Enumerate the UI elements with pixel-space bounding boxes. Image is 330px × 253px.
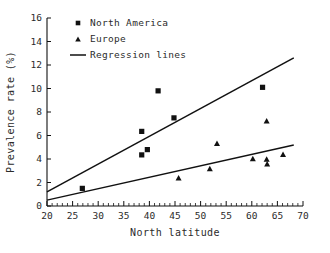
y-axis-ticks: 0246810121416 — [31, 12, 51, 211]
x-tick-label: 65 — [272, 210, 283, 221]
y-tick-label: 10 — [31, 83, 43, 94]
data-point-triangle — [264, 161, 270, 167]
x-tick-label: 35 — [118, 210, 129, 221]
x-tick-label: 55 — [220, 210, 231, 221]
data-point-triangle — [176, 175, 182, 181]
y-tick-label: 12 — [31, 59, 42, 70]
data-point-triangle — [264, 118, 270, 124]
y-tick-label: 16 — [31, 12, 43, 23]
data-points — [80, 85, 286, 191]
x-axis-title: North latitude — [130, 227, 220, 238]
x-tick-label: 60 — [246, 210, 258, 221]
y-tick-label: 4 — [36, 153, 42, 164]
regression-lines — [47, 58, 294, 200]
y-tick-label: 8 — [36, 106, 42, 117]
y-axis-title: Prevalence rate (%) — [5, 51, 16, 173]
legend: North AmericaEuropeRegression lines — [70, 17, 186, 60]
data-point-triangle — [214, 140, 220, 146]
data-point-square — [139, 129, 144, 134]
data-point-square — [145, 147, 150, 152]
legend-label: Regression lines — [90, 49, 186, 60]
data-point-triangle — [207, 166, 213, 172]
data-point-triangle — [264, 156, 270, 162]
data-point-square — [80, 186, 85, 191]
x-tick-label: 45 — [169, 210, 180, 221]
data-point-triangle — [250, 156, 256, 162]
x-tick-label: 25 — [67, 210, 78, 221]
y-tick-label: 2 — [36, 177, 42, 188]
plot-area: 0246810121416 2025303540455055606570 Nor… — [0, 0, 330, 253]
data-point-square — [171, 115, 176, 120]
legend-marker-triangle — [75, 36, 81, 41]
y-tick-label: 6 — [36, 130, 42, 141]
x-tick-label: 50 — [195, 210, 207, 221]
data-point-square — [260, 85, 265, 90]
x-tick-label: 20 — [41, 210, 53, 221]
x-tick-label: 40 — [144, 210, 156, 221]
legend-label: Europe — [90, 33, 126, 44]
y-tick-label: 14 — [31, 36, 43, 47]
x-tick-label: 70 — [297, 210, 309, 221]
x-tick-label: 30 — [92, 210, 104, 221]
scatter-chart: 0246810121416 2025303540455055606570 Nor… — [0, 0, 330, 253]
legend-label: North America — [90, 17, 168, 28]
data-point-square — [139, 152, 144, 157]
data-point-square — [156, 88, 161, 93]
legend-marker-square — [76, 21, 81, 26]
data-point-triangle — [280, 152, 286, 158]
x-axis-ticks: 2025303540455055606570 — [41, 201, 309, 221]
